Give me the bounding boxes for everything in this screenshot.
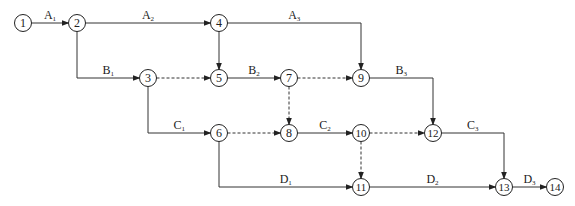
- node-number: 14: [550, 181, 562, 193]
- network-diagram: A1A2A3B1B2B3C1C2C3D1D2D3 123456789101112…: [0, 0, 575, 206]
- event-node: 13: [496, 179, 513, 196]
- event-node: 8: [281, 125, 298, 142]
- node-number: 1: [20, 16, 26, 30]
- event-node: 12: [425, 125, 442, 142]
- activity-label: B2: [248, 63, 260, 78]
- activity-arrow: [442, 133, 505, 179]
- node-number: 13: [499, 181, 511, 193]
- node-number: 11: [356, 181, 367, 193]
- event-node: 9: [353, 70, 370, 87]
- activity-arrow: [370, 78, 434, 125]
- node-number: 12: [428, 127, 439, 139]
- event-node: 3: [140, 70, 157, 87]
- node-number: 4: [216, 16, 222, 30]
- event-node: 4: [211, 15, 228, 32]
- event-node: 2: [69, 15, 86, 32]
- activity-label: C3: [467, 118, 479, 133]
- activity-label: A3: [288, 8, 301, 23]
- node-number: 8: [286, 126, 292, 140]
- node-number: 3: [145, 71, 151, 85]
- node-number: 9: [358, 71, 364, 85]
- activity-label: A1: [44, 8, 57, 23]
- event-node: 11: [353, 179, 370, 196]
- activity-label: C2: [319, 118, 331, 133]
- event-node: 10: [353, 125, 370, 142]
- event-node: 5: [211, 70, 228, 87]
- event-node: 1: [15, 15, 32, 32]
- activity-label: B1: [102, 63, 114, 78]
- activity-label: B3: [395, 63, 407, 78]
- activity-label: D1: [280, 172, 293, 187]
- node-number: 10: [356, 127, 368, 139]
- event-node: 7: [281, 70, 298, 87]
- node-number: 5: [216, 71, 222, 85]
- activity-label: A2: [142, 8, 155, 23]
- node-number: 6: [216, 126, 222, 140]
- activity-label: D2: [426, 172, 439, 187]
- activity-label: C1: [173, 118, 185, 133]
- activity-label: D3: [523, 172, 536, 187]
- event-node: 14: [547, 179, 564, 196]
- node-number: 7: [286, 71, 292, 85]
- node-number: 2: [74, 16, 80, 30]
- event-node: 6: [211, 125, 228, 142]
